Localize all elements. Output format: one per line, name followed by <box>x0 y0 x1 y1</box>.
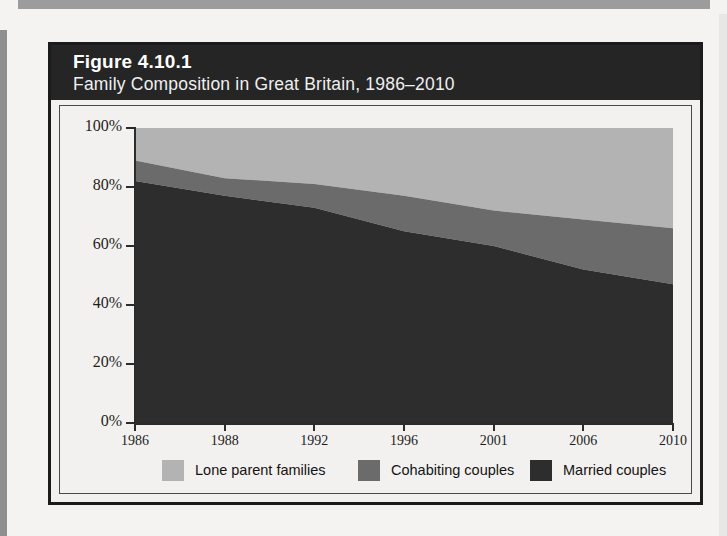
x-axis-tick <box>672 424 674 431</box>
chart-legend: Lone parent familiesCohabiting couplesMa… <box>60 458 691 488</box>
page-left-edge <box>0 30 7 536</box>
chart-panel: 0%20%40%60%80%100% 198619881992199620012… <box>59 105 692 494</box>
x-axis-label: 2006 <box>548 433 618 449</box>
legend-item[interactable]: Married couples <box>530 458 666 482</box>
x-axis-tick <box>582 424 584 431</box>
y-axis-label: 60% <box>60 235 122 253</box>
figure-number: Figure 4.10.1 <box>73 51 700 73</box>
x-axis-tick <box>403 424 405 431</box>
plot-area <box>135 128 673 423</box>
x-axis-label: 2010 <box>638 433 708 449</box>
x-axis-tick <box>224 424 226 431</box>
legend-label: Cohabiting couples <box>391 462 514 478</box>
figure-title: Family Composition in Great Britain, 198… <box>73 73 700 95</box>
legend-label: Lone parent families <box>195 462 326 478</box>
legend-item[interactable]: Cohabiting couples <box>358 458 514 482</box>
y-axis-line <box>134 127 136 424</box>
x-axis-label: 2001 <box>459 433 529 449</box>
x-axis-label: 1988 <box>190 433 260 449</box>
stacked-area-plot <box>135 128 673 423</box>
x-axis-label: 1992 <box>279 433 349 449</box>
y-axis-label: 0% <box>60 412 122 430</box>
page-top-band <box>18 0 710 9</box>
legend-item[interactable]: Lone parent families <box>162 458 326 482</box>
y-axis-label: 80% <box>60 176 122 194</box>
legend-swatch-icon <box>530 460 552 481</box>
figure-header: Figure 4.10.1 Family Composition in Grea… <box>51 45 700 100</box>
x-axis-tick <box>134 424 136 431</box>
legend-label: Married couples <box>563 462 666 478</box>
x-axis-line <box>134 423 674 425</box>
plot-wrap: 0%20%40%60%80%100% 198619881992199620012… <box>60 106 691 493</box>
x-axis-tick <box>313 424 315 431</box>
x-axis-label: 1986 <box>100 433 170 449</box>
x-axis-tick <box>493 424 495 431</box>
y-axis-label: 100% <box>60 117 122 135</box>
legend-swatch-icon <box>162 460 184 481</box>
figure-box: Figure 4.10.1 Family Composition in Grea… <box>48 42 703 505</box>
y-axis-label: 20% <box>60 353 122 371</box>
legend-swatch-icon <box>358 460 380 481</box>
page-right-edge <box>719 14 727 536</box>
x-axis-label: 1996 <box>369 433 439 449</box>
y-axis-label: 40% <box>60 294 122 312</box>
